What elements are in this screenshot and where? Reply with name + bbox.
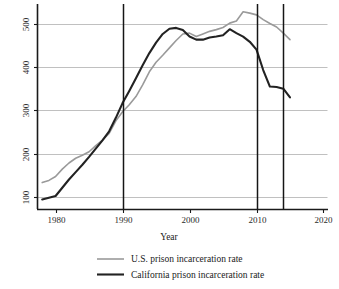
y-tick-label-300: 300 xyxy=(21,103,31,117)
y-tick-label-200: 200 xyxy=(21,147,31,161)
y-tick-label-100: 100 xyxy=(21,190,31,204)
x-tick-label-2020: 2020 xyxy=(315,215,334,225)
x-tick-label-1980: 1980 xyxy=(48,215,67,225)
chart-figure: 100200300400500 19801990200020102020 Yea… xyxy=(0,0,339,289)
y-tick-label-400: 400 xyxy=(21,60,31,74)
incarceration-rate-line-chart: 100200300400500 19801990200020102020 Yea… xyxy=(0,0,339,289)
x-tick-label-2010: 2010 xyxy=(249,215,268,225)
legend-label-us: U.S. prison incarceration rate xyxy=(131,254,243,264)
y-tick-label-500: 500 xyxy=(21,17,31,31)
x-axis-title: Year xyxy=(160,232,178,242)
x-tick-label-1990: 1990 xyxy=(115,215,134,225)
x-tick-label-2000: 2000 xyxy=(182,215,201,225)
chart-background xyxy=(0,0,339,289)
legend-label-california: California prison incarceration rate xyxy=(131,270,264,280)
